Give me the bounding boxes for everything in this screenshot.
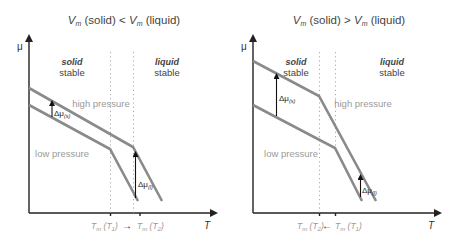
liquid-region-label-top: liquid	[380, 57, 404, 67]
low-pressure-label: low pressure	[264, 148, 318, 159]
high-pressure-label: high pressure	[334, 98, 392, 109]
liquid-region-label-top: liquid	[155, 57, 179, 67]
melting-temp-2-label: Tm (T1)	[335, 221, 362, 232]
x-axis-label: T	[428, 220, 435, 231]
panel-right: Vm (solid) > Vm (liquid) μ T solid stabl…	[241, 14, 440, 232]
melting-temp-1-label: Tm (T1)	[91, 221, 118, 232]
melting-temp-1-label: Tm (T2)	[297, 221, 324, 232]
melting-shift-arrow: ←	[322, 220, 332, 231]
solid-region-label-top: solid	[285, 57, 307, 67]
y-axis-label: μ	[241, 41, 247, 52]
x-axis-label: T	[204, 220, 211, 231]
panel-right-title: Vm (solid) > Vm (liquid)	[293, 14, 406, 27]
liquid-region-label-bottom: stable	[154, 67, 179, 78]
low-pressure-label: low pressure	[35, 148, 89, 159]
solid-region-label-top: solid	[61, 57, 83, 67]
phase-diagram-figure: Vm (solid) < Vm (liquid) μ T solid stabl…	[0, 0, 457, 239]
delta-mu-liquid-label: Δμ(l)	[362, 186, 377, 196]
panel-left-title: Vm (solid) < Vm (liquid)	[68, 14, 181, 27]
liquid-region-label-bottom: stable	[379, 67, 404, 78]
melting-temp-2-label: Tm (T2)	[137, 221, 164, 232]
y-axis-label: μ	[17, 41, 23, 52]
solid-region-label-bottom: stable	[59, 67, 84, 78]
melting-shift-arrow: →	[122, 220, 132, 231]
panel-left: Vm (solid) < Vm (liquid) μ T solid stabl…	[17, 14, 216, 232]
high-pressure-label: high pressure	[72, 98, 130, 109]
solid-region-label-bottom: stable	[283, 67, 308, 78]
delta-mu-solid-label: Δμ(s)	[279, 94, 296, 104]
high-pressure-curve	[253, 61, 376, 201]
